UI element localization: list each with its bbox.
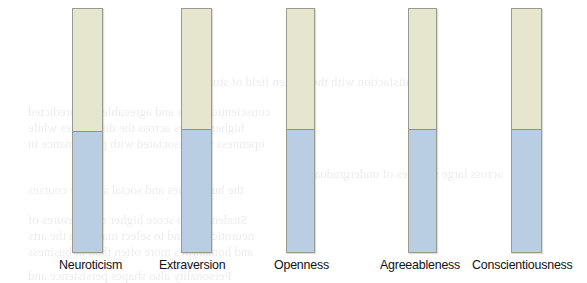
stacked-bar xyxy=(408,8,437,253)
trait-caption: Neuroticism xyxy=(59,258,122,272)
stacked-bar xyxy=(72,8,103,253)
trait-caption: Conscientiousness xyxy=(472,258,573,272)
bar-segment-lower xyxy=(512,129,541,252)
trait-caption: Agreeableness xyxy=(380,258,460,272)
stacked-bar xyxy=(511,8,542,253)
bar-segment-lower xyxy=(409,129,436,252)
personality-traits-figure: HigherArts,HumanitiesLowerEconomicsandBu… xyxy=(0,0,587,283)
trait-caption: Openness xyxy=(274,258,329,272)
bar-segment-lower xyxy=(182,129,211,252)
bar-segment-lower xyxy=(287,129,314,252)
stacked-bar xyxy=(286,8,315,253)
bar-segment-lower xyxy=(73,131,102,252)
trait-caption: Extraversion xyxy=(159,258,225,272)
stacked-bar xyxy=(181,8,212,253)
